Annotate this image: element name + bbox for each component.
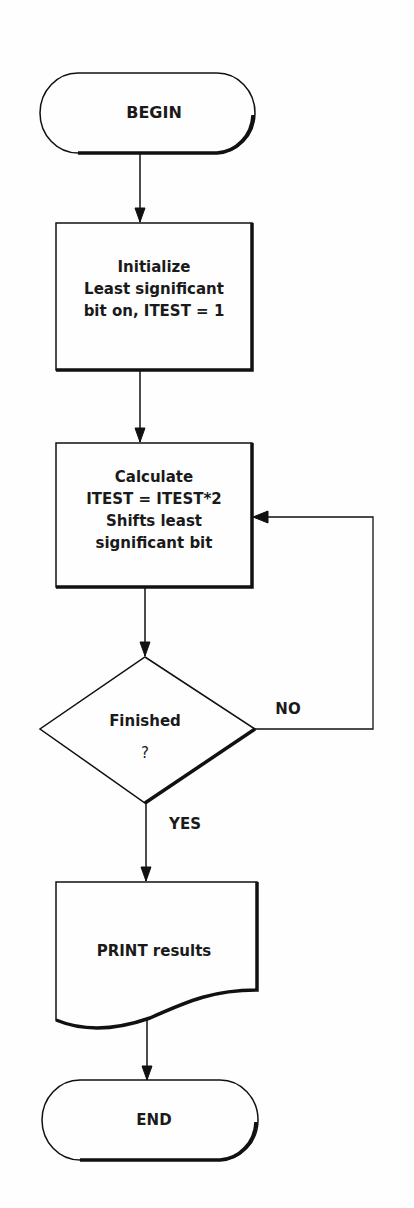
begin-label: BEGIN [56,102,252,124]
yes-branch-label: YES [162,813,208,835]
print-label: PRINT results [56,940,252,962]
initialize-line: bit on, ITEST = 1 [56,300,252,322]
decision-label: Finished [90,710,200,732]
end-label: END [56,1109,252,1131]
decision-question-mark: ? [90,742,200,764]
no-branch-label: NO [268,698,308,720]
calculate-text: Calculate ITEST = ITEST*2 Shifts least s… [56,466,252,554]
initialize-text: Initialize Least significant bit on, ITE… [56,256,252,322]
initialize-line: Least significant [56,278,252,300]
calculate-line: ITEST = ITEST*2 [56,488,252,510]
calculate-line: Shifts least [56,510,252,532]
initialize-line: Initialize [56,256,252,278]
calculate-line: Calculate [56,466,252,488]
calculate-line: significant bit [56,532,252,554]
flowchart-canvas [0,0,414,1208]
